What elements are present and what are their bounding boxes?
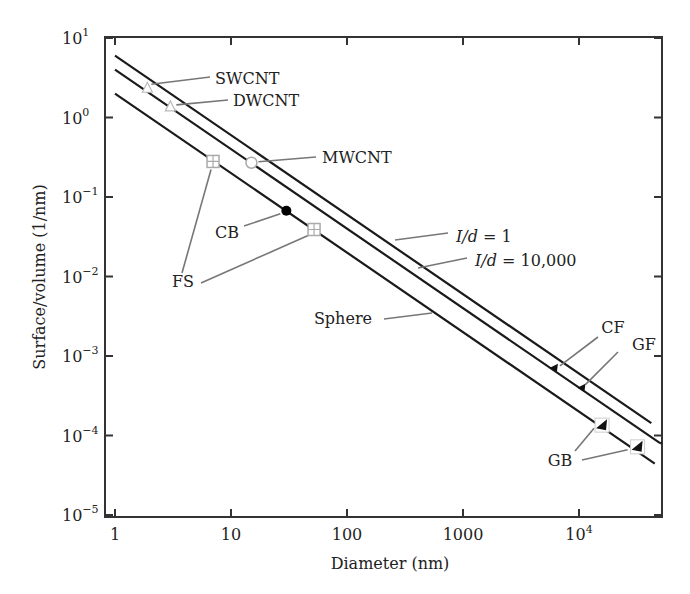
y-tick-label: 101 <box>62 26 89 48</box>
y-tick-label: 100 <box>62 106 89 128</box>
x-tick-label: 104 <box>565 523 592 544</box>
label-swcnt: SWCNT <box>215 69 280 88</box>
label-gb-leader <box>582 450 628 460</box>
label-gf-leader <box>585 352 618 385</box>
label-fs-leader <box>182 169 211 273</box>
x-tick-label: 100 <box>332 525 363 544</box>
label-cb-leader <box>244 214 280 226</box>
y-tick-label: 10−3 <box>62 344 99 366</box>
label-fs: FS <box>172 272 194 291</box>
chart: 110100100010410110010−110−210−310−410−5 … <box>0 0 690 594</box>
x-axis-title: Diameter (nm) <box>331 554 450 573</box>
label-cb: CB <box>215 223 239 242</box>
marker-mwcnt <box>246 157 257 168</box>
label-mwcnt: MWCNT <box>322 148 392 167</box>
x-tick-label: 10 <box>221 525 241 544</box>
label-fs-leader <box>201 236 308 283</box>
y-axis-title: Surface/volume (1/nm) <box>30 184 49 370</box>
label-sphere-leader <box>384 313 432 319</box>
label-i-d-1-leader <box>395 233 448 240</box>
marker-swcnt <box>142 82 152 92</box>
label-sphere: Sphere <box>314 309 372 328</box>
annotation-labels: SWCNTDWCNTMWCNTCBFSI/d = 1I/d = 10,000Sp… <box>172 69 656 470</box>
label-i-d-1: I/d = 1 <box>455 227 512 246</box>
label-gb: GB <box>548 451 573 470</box>
label-i-d-10-000: I/d = 10,000 <box>474 251 577 270</box>
x-tick-label: 1000 <box>443 525 484 544</box>
marker-cb <box>281 206 291 216</box>
y-tick-label: 10−4 <box>62 424 99 446</box>
label-i-d-10-000-leader <box>418 258 467 268</box>
label-cf: CF <box>601 318 624 337</box>
label-gb-leader <box>575 428 594 451</box>
series-lines <box>115 56 662 464</box>
label-swcnt-leader <box>151 77 210 84</box>
y-tick-label: 10−1 <box>62 185 99 207</box>
series-line-l-d-1 <box>115 56 651 424</box>
label-gf: GF <box>632 335 656 354</box>
y-tick-label: 10−5 <box>62 503 99 525</box>
series-line-l-d-10-000 <box>115 70 660 444</box>
x-tick-label: 1 <box>110 525 120 544</box>
label-cf-leader <box>560 337 598 366</box>
label-dwcnt: DWCNT <box>233 91 300 110</box>
y-tick-label: 10−2 <box>62 265 99 287</box>
